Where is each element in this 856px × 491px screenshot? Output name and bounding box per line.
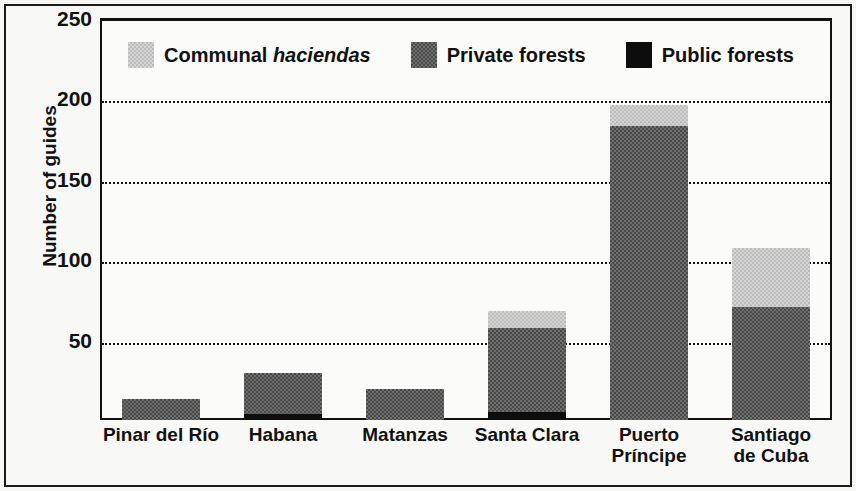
bar-group[interactable] (610, 105, 688, 420)
legend-item[interactable]: Communal haciendas (128, 42, 371, 68)
bar-segment-communal-haciendas[interactable] (732, 248, 810, 307)
bar-group[interactable] (122, 399, 200, 420)
bars-layer (100, 18, 832, 420)
x-tick-label: Santa Clara (466, 424, 588, 445)
bar-segment-communal-haciendas[interactable] (488, 311, 566, 329)
y-tick-label-250: 250 (8, 8, 92, 29)
legend-item[interactable]: Private forests (411, 42, 586, 68)
bar-segment-private-forests[interactable] (732, 307, 810, 420)
x-axis-tick-labels: Pinar del RíoHabanaMatanzasSanta ClaraPu… (100, 424, 832, 484)
legend-label: Private forests (447, 44, 586, 67)
communal-swatch (128, 42, 154, 68)
bar-group[interactable] (488, 311, 566, 420)
bar-segment-private-forests[interactable] (488, 328, 566, 412)
bar-segment-public-forests[interactable] (244, 414, 322, 420)
y-tick-label-50: 50 (8, 329, 92, 350)
x-tick-label: Matanzas (344, 424, 466, 445)
bar-segment-private-forests[interactable] (366, 389, 444, 420)
chart-legend: Communal haciendasPrivate forestsPublic … (128, 40, 794, 70)
private-swatch (411, 42, 437, 68)
y-tick-label-150: 150 (8, 168, 92, 189)
legend-label: Communal haciendas (164, 44, 371, 67)
legend-item[interactable]: Public forests (626, 42, 794, 68)
public-swatch (626, 42, 652, 68)
bar-segment-communal-haciendas[interactable] (610, 105, 688, 126)
bar-segment-private-forests[interactable] (122, 399, 200, 420)
x-tick-label: Pinar del Río (100, 424, 222, 445)
x-tick-label: Habana (222, 424, 344, 445)
x-tick-label: Puerto Príncipe (588, 424, 710, 467)
bar-segment-public-forests[interactable] (488, 412, 566, 420)
bar-segment-private-forests[interactable] (244, 373, 322, 413)
legend-label: Public forests (662, 44, 794, 67)
x-tick-label: Santiago de Cuba (710, 424, 832, 467)
bar-segment-private-forests[interactable] (610, 126, 688, 420)
bar-group[interactable] (244, 373, 322, 420)
figure-container: Number of guides 50100150200250 Communal… (0, 0, 856, 491)
y-tick-label-200: 200 (8, 88, 92, 109)
y-axis-tick-labels: 50100150200250 (0, 0, 92, 491)
bar-group[interactable] (732, 248, 810, 420)
bar-group[interactable] (366, 389, 444, 420)
y-tick-label-100: 100 (8, 249, 92, 270)
